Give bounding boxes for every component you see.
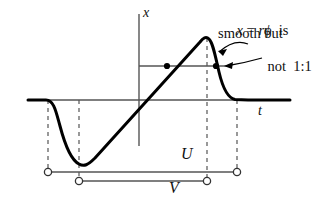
annotation-line-3: not 1:1: [253, 44, 312, 88]
bracket-outer-endpoint-right: [233, 168, 240, 175]
bracket-outer-label: U: [181, 146, 193, 162]
annotation-not-word: not: [268, 58, 287, 74]
curve-x-of-t: [28, 38, 290, 166]
intersection-dot-right: [213, 63, 219, 69]
bracket-inner-label: V: [169, 180, 179, 196]
figure-container: x t x = rϕ is smooth but not 1:1 U V: [0, 0, 324, 204]
x-axis-label: x: [143, 6, 149, 20]
t-axis-label: t: [258, 104, 262, 118]
annotation-ratio: 1:1: [293, 58, 312, 74]
bracket-outer-endpoint-left: [44, 168, 51, 175]
bracket-inner-endpoint-right: [203, 177, 210, 184]
intersection-dot-left: [164, 63, 170, 69]
callout-arrowhead-not-one-to-one: [224, 62, 233, 69]
bracket-inner-endpoint-left: [75, 177, 82, 184]
annotation-line-2: smooth but: [218, 26, 283, 41]
